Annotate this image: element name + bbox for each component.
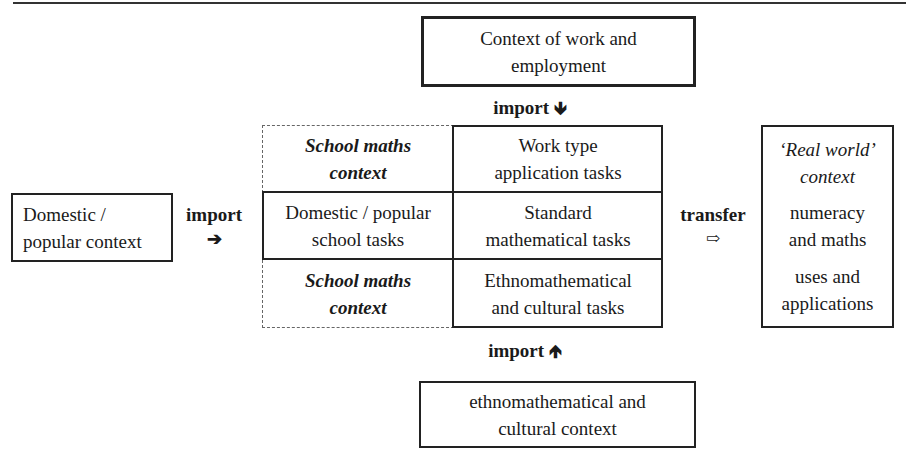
import-bottom-text: import: [488, 340, 544, 361]
uses-and-applications: uses and applications: [782, 263, 874, 317]
numeracy-and-maths: numeracy and maths: [789, 199, 867, 253]
cell-line: Standard: [524, 199, 592, 226]
import-bottom-label: import 🡹: [460, 339, 590, 363]
import-left-text: import: [176, 203, 252, 227]
work-type-application-tasks: Work type application tasks: [453, 125, 663, 192]
ethnomathematical-context-box: ethnomathematical and cultural context: [419, 381, 696, 448]
numeracy-line1: numeracy: [789, 199, 867, 226]
ethno-context-line1: ethnomathematical and: [469, 388, 646, 415]
domestic-popular-school-tasks: Domestic / popular school tasks: [262, 192, 454, 259]
real-world-context-box: ‘Real world’ context numeracy and maths …: [761, 125, 894, 328]
ethnomathematical-cultural-tasks: Ethnomathematical and cultural tasks: [453, 260, 663, 328]
numeracy-line2: and maths: [789, 226, 867, 253]
uses-line2: applications: [782, 290, 874, 317]
cell-line: context: [330, 159, 387, 186]
arrow-down-icon: 🡻: [554, 98, 567, 118]
real-world-title: ‘Real world’ context: [779, 136, 876, 190]
standard-mathematical-tasks: Standard mathematical tasks: [453, 192, 663, 259]
real-world-title-line1: ‘Real world’: [779, 136, 876, 163]
domestic-context-box: Domestic / popular context: [11, 193, 173, 262]
cell-line: school tasks: [312, 226, 404, 253]
cell-line: mathematical tasks: [485, 226, 630, 253]
domestic-context-line1: Domestic /: [23, 201, 106, 228]
cell-line: Domestic / popular: [285, 199, 431, 226]
cell-line: context: [330, 294, 387, 321]
work-context-box: Context of work and employment: [421, 16, 696, 87]
outline-arrow-right-icon: ⇨: [668, 227, 758, 251]
transfer-text: transfer: [668, 203, 758, 227]
real-world-title-line2: context: [779, 163, 876, 190]
cell-line: School maths: [305, 132, 411, 159]
cell-line: application tasks: [494, 159, 621, 186]
school-maths-context-top: School maths context: [262, 125, 454, 192]
work-context-line1: Context of work and: [480, 25, 637, 52]
cell-line: and cultural tasks: [492, 294, 625, 321]
cell-line: School maths: [305, 267, 411, 294]
import-top-label: import 🡻: [470, 96, 590, 120]
top-rule: [13, 2, 906, 4]
cell-line: Work type: [518, 132, 597, 159]
arrow-up-icon: 🡹: [549, 341, 562, 361]
arrow-right-icon: ➔: [176, 227, 252, 251]
ethno-context-line2: cultural context: [498, 415, 617, 442]
uses-line1: uses and: [782, 263, 874, 290]
import-top-text: import: [493, 97, 549, 118]
task-grid: School maths context Domestic / popular …: [262, 125, 663, 328]
school-maths-context-bottom: School maths context: [262, 260, 454, 328]
import-left-label: import ➔: [176, 203, 252, 251]
cell-line: Ethnomathematical: [484, 267, 632, 294]
domestic-context-line2: popular context: [23, 228, 142, 255]
work-context-line2: employment: [511, 52, 606, 79]
transfer-label: transfer ⇨: [668, 203, 758, 251]
